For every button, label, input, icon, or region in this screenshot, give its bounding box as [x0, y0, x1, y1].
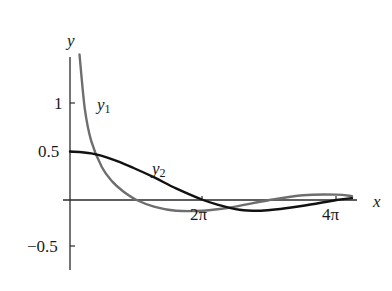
y-tick-label-0.5: 0.5 — [38, 143, 59, 160]
y-tick-label-neg-0.5: −0.5 — [27, 238, 58, 255]
series-y2-label-base: y — [152, 159, 160, 178]
x-tick-label-2pi: 2π — [190, 206, 207, 223]
x-tick-label-4pi: 4π — [322, 206, 339, 223]
series-y1-label-base: y — [97, 95, 105, 114]
y-tick-label-1: 1 — [54, 95, 63, 112]
axes — [63, 57, 357, 270]
series-y2-label: y2 — [152, 160, 166, 179]
series-y2-label-sub: 2 — [160, 166, 166, 180]
series-y1-label-sub: 1 — [105, 102, 111, 116]
series-y1-label: y1 — [97, 96, 111, 115]
series-y1-curve — [80, 55, 353, 212]
x-axis-label: x — [373, 193, 381, 210]
y-axis-label: y — [67, 32, 75, 49]
